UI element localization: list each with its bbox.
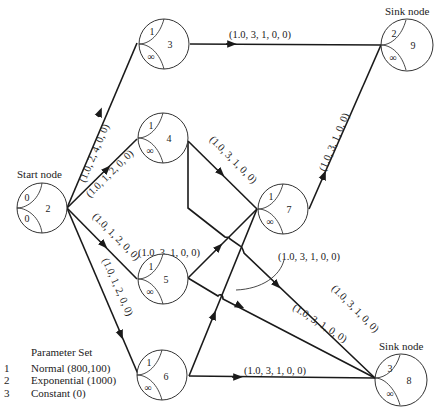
- node-4-top: 1: [149, 120, 154, 131]
- edge-6-8: [189, 376, 375, 378]
- edge-label-7-9: (1.0, 3, 1, 0, 0): [317, 111, 353, 173]
- edge-6-7: [189, 209, 257, 376]
- node-9-id: 9: [411, 40, 416, 51]
- callout-leader-4-8: [236, 260, 284, 290]
- node-7-bottom: ∞: [266, 216, 273, 227]
- node-4-bottom: ∞: [146, 145, 153, 156]
- node-6-bottom: ∞: [144, 382, 151, 393]
- node-7-top: 1: [269, 191, 274, 202]
- edge-3-9: [190, 44, 381, 45]
- legend-item: 2 Exponential (1000): [2, 374, 116, 387]
- node-7-id: 7: [287, 204, 292, 215]
- node-5: 1 ∞ 5: [138, 254, 188, 304]
- node-9-bottom: ∞: [389, 52, 396, 63]
- node-2-bottom: 0: [25, 213, 30, 224]
- node-6-id: 6: [164, 371, 169, 382]
- edge-label-3-9: (1.0, 3, 1, 0, 0): [229, 29, 292, 41]
- node-3-top: 1: [150, 26, 155, 37]
- node-5-top: 1: [149, 261, 154, 272]
- node-3-id: 3: [168, 39, 173, 50]
- legend-item-text: Constant (0): [31, 387, 86, 400]
- parameter-set-legend: Parameter Set 1 Normal (800,100) 2 Expon…: [2, 346, 116, 399]
- node-8-id: 8: [407, 375, 412, 386]
- node-3-bottom: ∞: [147, 51, 154, 62]
- edge-label-2-5: (1.0, 1, 2, 0, 0): [90, 211, 143, 264]
- node-2-top: 0: [25, 192, 30, 203]
- node-6: 1 ∞ 6: [137, 350, 187, 400]
- node-2: 0 0 2: [17, 183, 67, 233]
- legend-item: 3 Constant (0): [2, 387, 116, 400]
- edge-label-4-8-callout: (1.0, 3, 1, 0, 0): [278, 251, 341, 263]
- legend-item-number: 1: [2, 362, 31, 375]
- legend-item-number: 2: [2, 374, 31, 387]
- node-5-id: 5: [164, 274, 169, 285]
- legend-item: 1 Normal (800,100): [2, 362, 116, 375]
- legend-item-text: Exponential (1000): [31, 374, 116, 387]
- node-5-bottom: ∞: [146, 286, 153, 297]
- sink-node-9-caption: Sink node: [385, 5, 429, 17]
- edge-5-7: [188, 209, 257, 278]
- legend-title: Parameter Set: [31, 346, 116, 359]
- node-6-top: 1: [147, 357, 152, 368]
- start-node-caption: Start node: [17, 168, 62, 180]
- edge-label-6-8: (1.0, 3, 1, 0, 0): [244, 365, 307, 377]
- node-8-top: 3: [388, 363, 393, 374]
- node-4: 1 ∞ 4: [138, 113, 188, 163]
- node-2-id: 2: [46, 203, 51, 214]
- edge-label-4-7: (1.0, 3, 1, 0, 0): [207, 134, 260, 187]
- legend-item-text: Normal (800,100): [31, 362, 110, 375]
- node-9-top: 2: [392, 28, 397, 39]
- node-7: 1 ∞ 7: [258, 184, 308, 234]
- legend-item-number: 3: [2, 387, 31, 400]
- node-8-bottom: ∞: [386, 388, 393, 399]
- node-9: 2 ∞ 9: [381, 19, 433, 71]
- node-8: 3 ∞ 8: [375, 354, 427, 406]
- node-4-id: 4: [167, 133, 172, 144]
- sink-node-8-caption: Sink node: [379, 340, 423, 352]
- node-3: 1 ∞ 3: [139, 19, 189, 69]
- edge-label-2-6: (1.0, 1, 2, 0, 0): [99, 256, 135, 318]
